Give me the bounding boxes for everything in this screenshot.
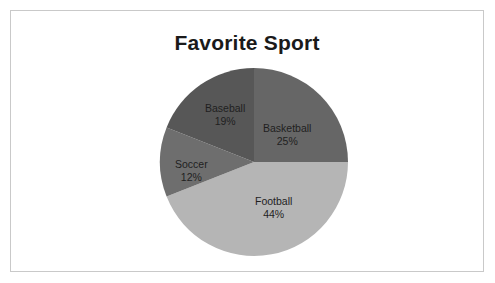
pie-slice-basketball[interactable] <box>254 68 348 162</box>
pie-slice-group <box>160 68 348 256</box>
chart-title: Favorite Sport <box>11 31 483 55</box>
chart-frame: Favorite Sport Basketball25%Football44%S… <box>10 10 484 272</box>
pie-svg <box>159 67 349 257</box>
pie-chart: Basketball25%Football44%Soccer12%Basebal… <box>159 67 349 257</box>
